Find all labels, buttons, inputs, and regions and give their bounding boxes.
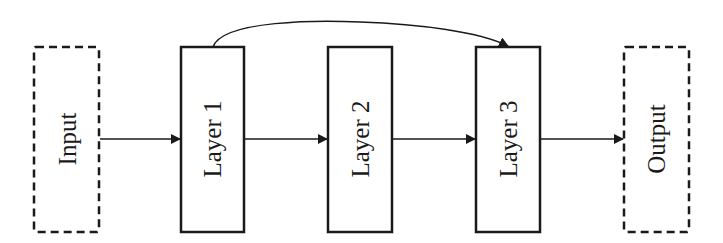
node-layer-2: Layer 2 xyxy=(328,47,392,232)
edge-skip-layer-1-to-layer-3 xyxy=(213,21,508,47)
node-layer-2-label: Layer 2 xyxy=(347,100,374,177)
node-input: Input xyxy=(34,47,99,232)
diagram-canvas: Input Layer 1 Layer 2 Layer 3 Output xyxy=(0,0,723,243)
node-output-label: Output xyxy=(643,104,670,174)
node-input-label: Input xyxy=(54,113,81,166)
node-layer-1-label: Layer 1 xyxy=(199,100,226,177)
node-layer-1: Layer 1 xyxy=(181,47,244,232)
node-output: Output xyxy=(624,47,689,232)
node-layer-3-label: Layer 3 xyxy=(495,100,522,177)
node-layer-3: Layer 3 xyxy=(476,47,540,232)
